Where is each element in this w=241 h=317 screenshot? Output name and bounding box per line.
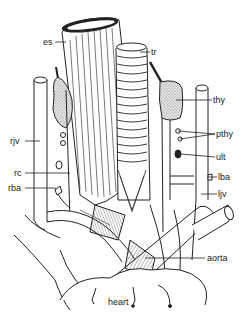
label-aorta: aorta: [207, 253, 228, 263]
label-pthy: pthy: [216, 129, 233, 139]
label-ult: ult: [216, 152, 226, 162]
label-ljv: ljv: [218, 189, 227, 199]
label-thy: thy: [213, 95, 225, 105]
right-jugular-vein: [34, 77, 47, 230]
label-rba: rba: [8, 183, 21, 193]
left-thyroid: [150, 62, 183, 232]
label-heart: heart: [108, 297, 129, 307]
label-lba: lba: [218, 172, 230, 182]
label-tr: tr: [151, 47, 157, 57]
heart: [60, 269, 207, 308]
label-rjv: rjv: [10, 136, 20, 146]
label-es: es: [43, 37, 53, 47]
trachea: [116, 43, 150, 212]
label-rc: rc: [14, 168, 22, 178]
diagram-drawing: [0, 0, 241, 317]
anatomy-diagram: es tr thy pthy ult lba ljv rjv rc rba ao…: [0, 0, 241, 317]
